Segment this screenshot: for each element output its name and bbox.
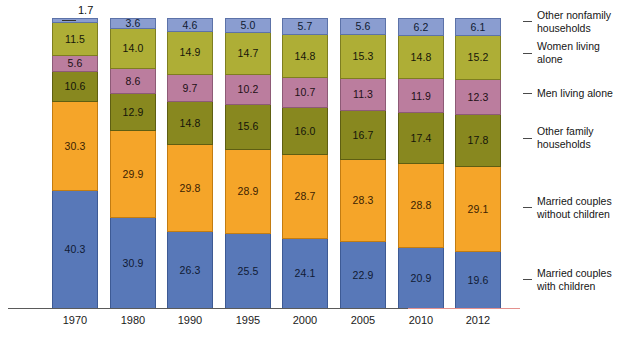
- segment-value-label: 4.6: [183, 20, 198, 31]
- legend-item-mcwith[interactable]: Married coupleswith children: [537, 267, 617, 292]
- segment-value-label: 5.6: [68, 58, 83, 69]
- x-tick-label-2000: 2000: [282, 314, 328, 326]
- legend-item-label-cont: households: [537, 22, 617, 35]
- x-tick-label-2012: 2012: [455, 314, 501, 326]
- bar-1990: 26.329.814.89.714.94.6: [167, 18, 213, 308]
- segment-value-label: 26.3: [180, 265, 201, 276]
- segment-womenalone-2012: 15.2: [455, 35, 501, 80]
- segment-value-label: 28.3: [353, 195, 374, 206]
- segment-value-label: 30.3: [65, 141, 86, 152]
- segment-value-label: 6.1: [471, 22, 486, 33]
- segment-menalone-1980: 8.6: [110, 68, 156, 93]
- segment-menalone-2010: 11.9: [398, 78, 444, 113]
- segment-mcwith-1990: 26.3: [167, 231, 213, 309]
- segment-value-label: 8.6: [126, 76, 141, 87]
- segment-womenalone-2000: 14.8: [282, 34, 328, 78]
- segment-value-label: 29.9: [123, 169, 144, 180]
- segment-menalone-1990: 9.7: [167, 74, 213, 103]
- segment-mcwithout-2012: 29.1: [455, 166, 501, 252]
- segment-otherfam-1990: 14.8: [167, 101, 213, 145]
- legend-leader-othernon: [523, 21, 532, 22]
- bar-1970: 40.330.310.65.611.51.7: [52, 18, 98, 308]
- segment-mcwith-1970: 40.3: [52, 190, 98, 309]
- segment-value-label: 15.3: [353, 51, 374, 62]
- bar-2012: 19.629.117.812.315.26.1: [455, 18, 501, 308]
- segment-value-label: 12.9: [123, 107, 144, 118]
- segment-value-label: 15.6: [238, 121, 259, 132]
- segment-value-label: 14.9: [180, 47, 201, 58]
- legend-item-label-cont: households: [537, 138, 617, 151]
- legend-leader-womenalone: [523, 53, 532, 54]
- segment-womenalone-1970: 11.5: [52, 22, 98, 56]
- segment-otherfam-2012: 17.8: [455, 114, 501, 167]
- segment-otherfam-1995: 15.6: [225, 104, 271, 150]
- segment-mcwith-2010: 20.9: [398, 247, 444, 309]
- segment-value-label: 10.2: [238, 84, 259, 95]
- segment-value-label: 14.8: [411, 52, 432, 63]
- x-tick-label-1980: 1980: [110, 314, 156, 326]
- segment-value-label: 11.5: [65, 34, 85, 45]
- segment-value-label: 22.9: [353, 270, 374, 281]
- segment-mcwithout-2000: 28.7: [282, 154, 328, 239]
- bar-2000: 24.128.716.010.714.85.7: [282, 18, 328, 308]
- segment-mcwith-2000: 24.1: [282, 238, 328, 309]
- segment-mcwithout-1970: 30.3: [52, 101, 98, 191]
- legend-item-othernon[interactable]: Other nonfamilyhouseholds: [537, 9, 617, 34]
- segment-value-label: 10.7: [295, 87, 316, 98]
- x-tick-label-2010: 2010: [398, 314, 444, 326]
- bar-2010: 20.928.817.411.914.86.2: [398, 18, 444, 308]
- segment-value-label: 5.0: [241, 20, 256, 31]
- segment-menalone-2012: 12.3: [455, 79, 501, 115]
- segment-value-label: 24.1: [295, 268, 316, 279]
- segment-value-label: 20.9: [411, 273, 432, 284]
- legend-item-label: Other nonfamily: [537, 9, 617, 22]
- legend-item-label-cont: with children: [537, 280, 617, 293]
- legend-leader-otherfam: [523, 138, 532, 139]
- x-axis-line-accent: [408, 308, 520, 309]
- segment-value-label: 3.6: [126, 18, 141, 29]
- segment-womenalone-1990: 14.9: [167, 31, 213, 75]
- legend-item-label-cont: without children: [537, 208, 617, 221]
- legend-item-menalone[interactable]: Men living alone: [537, 87, 617, 100]
- segment-othernon-1995: 5.0: [225, 18, 271, 33]
- segment-otherfam-2000: 16.0: [282, 107, 328, 154]
- legend-leader-mcwith: [523, 279, 532, 280]
- segment-mcwith-2012: 19.6: [455, 251, 501, 309]
- segment-value-label: 16.7: [353, 130, 374, 141]
- segment-value-label: 17.4: [411, 133, 432, 144]
- segment-menalone-2005: 11.3: [340, 78, 386, 111]
- segment-menalone-2000: 10.7: [282, 77, 328, 109]
- legend-item-otherfam[interactable]: Other familyhouseholds: [537, 125, 617, 150]
- segment-value-label: 19.6: [468, 275, 489, 286]
- segment-value-label: 40.3: [65, 244, 86, 255]
- bar-1980: 30.929.912.98.614.03.6: [110, 18, 156, 308]
- segment-value-label: 5.6: [356, 21, 371, 32]
- segment-othernon-2010: 6.2: [398, 18, 444, 36]
- segment-otherfam-2010: 17.4: [398, 112, 444, 164]
- segment-mcwith-2005: 22.9: [340, 241, 386, 309]
- segment-value-label: 11.3: [353, 89, 373, 100]
- segment-othernon-2000: 5.7: [282, 18, 328, 35]
- legend-item-label: Married couples: [537, 267, 617, 280]
- segment-value-label: 11.9: [411, 91, 431, 102]
- x-tick-label-1970: 1970: [52, 314, 98, 326]
- segment-othernon-2012: 6.1: [455, 18, 501, 36]
- segment-value-label: 25.5: [238, 266, 259, 277]
- legend-leader-menalone: [523, 93, 532, 94]
- segment-menalone-1995: 10.2: [225, 74, 271, 104]
- segment-mcwithout-1995: 28.9: [225, 149, 271, 235]
- segment-value-label: 9.7: [183, 83, 198, 94]
- segment-mcwith-1995: 25.5: [225, 233, 271, 309]
- segment-value-label: 14.0: [123, 43, 144, 54]
- legend-item-mcwithout[interactable]: Married coupleswithout children: [537, 195, 617, 220]
- segment-value-label: 10.6: [65, 81, 86, 92]
- legend-item-womenalone[interactable]: Women livingalone: [537, 40, 617, 65]
- segment-value-label: 28.8: [411, 200, 432, 211]
- segment-value-label: 5.7: [298, 21, 313, 32]
- segment-value-label: 16.0: [295, 126, 316, 137]
- segment-othernon-1990: 4.6: [167, 18, 213, 32]
- segment-value-label: 6.2: [414, 22, 429, 33]
- segment-value-label: 12.3: [468, 92, 489, 103]
